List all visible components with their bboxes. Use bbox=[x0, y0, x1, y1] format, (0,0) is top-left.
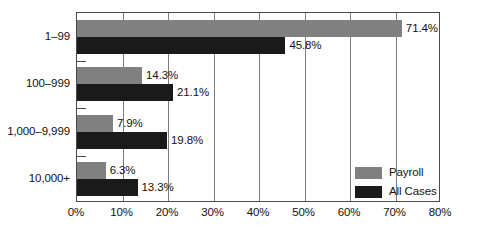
chart-legend: Payroll All Cases bbox=[355, 164, 439, 202]
bar-payroll-3 bbox=[77, 162, 106, 179]
legend-swatch-payroll-icon bbox=[355, 167, 382, 179]
bar-value-label-all-cases-1: 21.1% bbox=[177, 84, 209, 101]
y-axis-label-1: 100–999 bbox=[0, 77, 76, 89]
legend-label-all-cases: All Cases bbox=[389, 185, 437, 198]
x-axis-tick-label-30%: 30% bbox=[201, 205, 224, 219]
y-axis-label-0: 1–99 bbox=[0, 30, 76, 42]
y-axis-label-3: 10,000+ bbox=[0, 172, 76, 184]
bar-payroll-1 bbox=[77, 67, 142, 84]
x-axis-tick-labels: 0%10%20%30%40%50%60%70%80% bbox=[76, 205, 440, 225]
bar-all-cases-2 bbox=[77, 132, 167, 149]
bar-value-label-all-cases-3: 13.3% bbox=[142, 179, 174, 196]
bar-all-cases-0 bbox=[77, 37, 285, 54]
bar-all-cases-3 bbox=[77, 179, 138, 196]
y-axis-tick-1 bbox=[77, 61, 86, 62]
y-axis-category-labels: 1–99 100–999 1,000–9,999 10,000+ bbox=[0, 12, 76, 202]
legend-item-payroll: Payroll bbox=[355, 164, 439, 181]
bar-chart: 1–99 100–999 1,000–9,999 10,000+ 71.4%45… bbox=[0, 0, 481, 234]
bar-payroll-0 bbox=[77, 20, 402, 37]
plot-area: 71.4%45.8%14.3%21.1%7.9%19.8%6.3%13.3% P… bbox=[76, 12, 440, 202]
bar-value-label-payroll-2: 7.9% bbox=[117, 115, 143, 132]
x-axis-tick-label-80%: 80% bbox=[429, 205, 452, 219]
bar-value-label-all-cases-2: 19.8% bbox=[171, 132, 203, 149]
x-axis-tick-label-20%: 20% bbox=[156, 205, 179, 219]
x-axis-tick-label-60%: 60% bbox=[338, 205, 361, 219]
x-axis-tick-label-0%: 0% bbox=[68, 205, 84, 219]
x-axis-tick-label-10%: 10% bbox=[110, 205, 133, 219]
bar-value-label-all-cases-0: 45.8% bbox=[289, 37, 321, 54]
bar-value-label-payroll-0: 71.4% bbox=[406, 20, 438, 37]
x-axis-tick-label-40%: 40% bbox=[247, 205, 270, 219]
y-axis-label-2: 1,000–9,999 bbox=[0, 125, 76, 137]
bar-payroll-2 bbox=[77, 115, 113, 132]
legend-label-payroll: Payroll bbox=[389, 166, 423, 179]
y-axis-tick-2 bbox=[77, 108, 86, 109]
x-axis-tick-label-50%: 50% bbox=[292, 205, 315, 219]
y-axis-tick-3 bbox=[77, 156, 86, 157]
x-axis-tick-label-70%: 70% bbox=[383, 205, 406, 219]
gridline-60% bbox=[350, 13, 351, 201]
bar-value-label-payroll-1: 14.3% bbox=[146, 67, 178, 84]
bar-value-label-payroll-3: 6.3% bbox=[110, 162, 136, 179]
legend-item-all-cases: All Cases bbox=[355, 183, 439, 200]
legend-swatch-all-cases-icon bbox=[355, 186, 382, 198]
bar-all-cases-1 bbox=[77, 84, 173, 101]
